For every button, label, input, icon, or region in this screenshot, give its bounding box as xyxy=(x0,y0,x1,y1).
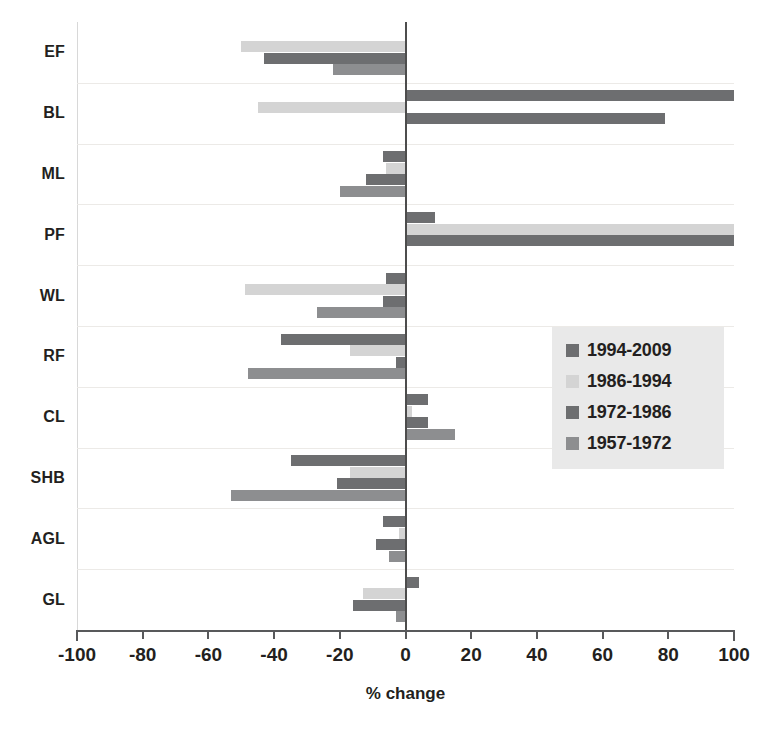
y-axis-label-shb: SHB xyxy=(31,469,65,487)
x-axis: -100-80-60-40-20020406080100 % change xyxy=(77,630,734,733)
legend-swatch-icon xyxy=(566,344,579,357)
x-tick-label-60: 60 xyxy=(592,644,613,666)
bar-pf-1972-1986 xyxy=(406,235,735,246)
bar-bl-1994-2009 xyxy=(406,90,735,101)
x-tick--40 xyxy=(273,630,275,639)
bar-shb-1994-2009 xyxy=(291,455,406,466)
bar-shb-1972-1986 xyxy=(337,478,406,489)
bar-ml-1986-1994 xyxy=(386,163,406,174)
bar-rf-1957-1972 xyxy=(248,368,406,379)
y-axis-label-ml: ML xyxy=(41,165,65,183)
x-tick-20 xyxy=(470,630,472,639)
bar-cl-1994-2009 xyxy=(406,394,429,405)
bar-ef-1972-1986 xyxy=(264,53,405,64)
legend-item-1972-1986: 1972-1986 xyxy=(552,397,724,428)
x-tick-label--20: -20 xyxy=(326,644,353,666)
x-tick--100 xyxy=(76,630,78,641)
bar-agl-1994-2009 xyxy=(383,516,406,527)
x-tick-100 xyxy=(733,630,735,641)
legend-swatch-icon xyxy=(566,375,579,388)
bar-cl-1972-1986 xyxy=(406,417,429,428)
x-tick-label-40: 40 xyxy=(526,644,547,666)
x-tick-0 xyxy=(405,630,407,639)
bar-wl-1994-2009 xyxy=(386,273,406,284)
bar-shb-1986-1994 xyxy=(350,467,406,478)
x-tick--60 xyxy=(207,630,209,639)
y-axis-label-agl: AGL xyxy=(31,530,65,548)
x-tick-label-20: 20 xyxy=(461,644,482,666)
bar-pf-1994-2009 xyxy=(406,212,436,223)
bar-rf-1994-2009 xyxy=(281,334,406,345)
x-tick--20 xyxy=(339,630,341,639)
legend-label: 1986-1994 xyxy=(587,371,671,392)
legend-item-1957-1972: 1957-1972 xyxy=(552,428,724,459)
bar-bl-1972-1986 xyxy=(406,113,666,124)
bar-pf-1986-1994 xyxy=(406,224,735,235)
x-tick-40 xyxy=(536,630,538,639)
bar-agl-1957-1972 xyxy=(389,551,405,562)
bar-shb-1957-1972 xyxy=(231,490,405,501)
plot-area xyxy=(77,22,734,630)
bar-ef-1986-1994 xyxy=(241,41,405,52)
x-tick-label-100: 100 xyxy=(718,644,750,666)
legend-label: 1957-1972 xyxy=(587,433,671,454)
x-axis-title: % change xyxy=(77,684,734,704)
y-axis-labels: EFBLMLPFWLRFCLSHBAGLGL xyxy=(0,22,77,630)
legend-item-1994-2009: 1994-2009 xyxy=(552,335,724,366)
x-tick-label--100: -100 xyxy=(58,644,96,666)
bar-wl-1972-1986 xyxy=(383,296,406,307)
legend-swatch-icon xyxy=(566,437,579,450)
y-axis-label-cl: CL xyxy=(43,408,65,426)
bar-ml-1957-1972 xyxy=(340,186,406,197)
y-axis-label-ef: EF xyxy=(44,43,65,61)
bar-rf-1986-1994 xyxy=(350,345,406,356)
legend-label: 1994-2009 xyxy=(587,340,671,361)
bar-bl-1986-1994 xyxy=(258,102,406,113)
bar-cl-1957-1972 xyxy=(406,429,455,440)
x-tick-80 xyxy=(667,630,669,639)
y-axis-label-rf: RF xyxy=(43,347,65,365)
bar-chart: EFBLMLPFWLRFCLSHBAGLGL -100-80-60-40-200… xyxy=(0,0,758,733)
y-axis-label-gl: GL xyxy=(42,591,65,609)
x-tick-label--80: -80 xyxy=(129,644,156,666)
legend-label: 1972-1986 xyxy=(587,402,671,423)
x-tick-label-80: 80 xyxy=(658,644,679,666)
bar-wl-1957-1972 xyxy=(317,307,406,318)
bar-agl-1972-1986 xyxy=(376,539,406,550)
y-axis-label-wl: WL xyxy=(40,287,65,305)
bar-gl-1972-1986 xyxy=(353,600,406,611)
legend: 1994-20091986-19941972-19861957-1972 xyxy=(552,327,724,469)
x-tick-60 xyxy=(602,630,604,639)
x-tick-label-0: 0 xyxy=(400,644,411,666)
legend-swatch-icon xyxy=(566,406,579,419)
bar-ml-1972-1986 xyxy=(366,174,405,185)
bar-gl-1994-2009 xyxy=(406,577,419,588)
x-tick-label--40: -40 xyxy=(260,644,287,666)
bar-ml-1994-2009 xyxy=(383,151,406,162)
x-tick--80 xyxy=(142,630,144,639)
y-axis-label-bl: BL xyxy=(43,104,65,122)
bar-gl-1986-1994 xyxy=(363,588,406,599)
zero-line xyxy=(405,22,407,630)
legend-item-1986-1994: 1986-1994 xyxy=(552,366,724,397)
y-axis-label-pf: PF xyxy=(44,226,65,244)
x-tick-label--60: -60 xyxy=(195,644,222,666)
bar-wl-1986-1994 xyxy=(245,284,406,295)
bar-ef-1957-1972 xyxy=(333,64,405,75)
